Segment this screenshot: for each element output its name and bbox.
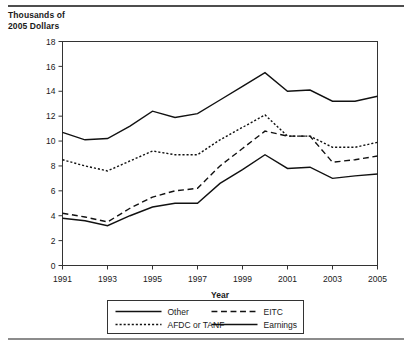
y-tick-label: 10 [46,136,56,146]
x-tick-label: 1993 [98,274,117,284]
legend-label: Other [168,307,189,317]
x-tick-label: 2005 [368,274,387,284]
line-chart-plot: 0246810121416181991199319951997199920012… [0,0,411,346]
figure-container: Thousands of 2005 Dollars 02468101214161… [0,0,411,346]
y-tick-label: 4 [51,211,56,221]
y-tick-label: 2 [51,236,56,246]
x-tick-label: 1991 [53,274,72,284]
x-tick-label: 1999 [233,274,252,284]
y-tick-label: 14 [46,86,56,96]
legend-label: Earnings [264,320,298,330]
plot-frame [63,42,378,266]
y-tick-label: 18 [46,37,56,47]
bottom-rule [8,338,404,340]
x-tick-label: 1997 [188,274,207,284]
y-tick-label: 8 [51,161,56,171]
x-axis-label: Year [211,290,230,300]
x-tick-label: 2003 [323,274,342,284]
series-line-other [63,73,378,140]
y-tick-label: 0 [51,261,56,271]
series-line-afdc-or-tanf [63,115,378,171]
legend-label: EITC [264,307,283,317]
y-tick-label: 16 [46,62,56,72]
y-tick-label: 6 [51,186,56,196]
y-tick-label: 12 [46,111,56,121]
x-tick-label: 1995 [143,274,162,284]
x-tick-label: 2001 [278,274,297,284]
